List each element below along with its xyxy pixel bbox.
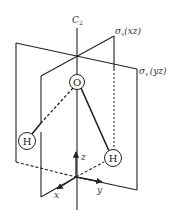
svg-text:H: H: [109, 153, 118, 164]
symmetry-diagram: O H H z x y C2 σv(xz) σv′(yz): [0, 0, 179, 221]
y-axis-label: y: [96, 185, 103, 195]
hydrogen-atom-left: H: [19, 133, 36, 150]
oxygen-atom: O: [70, 75, 85, 90]
c2-label: C2: [72, 15, 83, 26]
x-axis-arrow: [57, 177, 76, 189]
hydrogen-atom-right: H: [105, 150, 122, 167]
sigma-v-prime-yz-label: σv′(yz): [139, 65, 167, 77]
svg-text:O: O: [73, 77, 81, 88]
bond-o-h-left-dashed: [41, 88, 73, 123]
x-axis-label: x: [54, 190, 59, 200]
bond-o-h-right: [81, 88, 109, 151]
z-axis-label: z: [80, 152, 86, 162]
sigma-v-xz-label: σv(xz): [115, 26, 142, 37]
y-axis-arrow: [76, 177, 102, 182]
bond-o-h-left-solid: [32, 123, 41, 134]
svg-text:H: H: [23, 136, 32, 147]
